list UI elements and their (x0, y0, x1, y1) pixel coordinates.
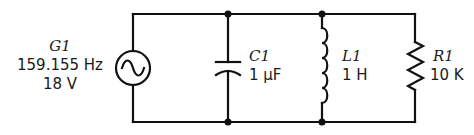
junction-dot (319, 11, 326, 18)
junction-dot (225, 119, 232, 126)
inductor-value-label: 1 H (342, 67, 368, 84)
inductor-coil-icon (322, 28, 327, 103)
resistor-zigzag-icon (408, 42, 423, 90)
capacitor-value-label: 1 μF (249, 67, 281, 84)
junction-dot (319, 119, 326, 126)
capacitor-ref-label: C1 (249, 48, 270, 65)
circuit-diagram: G1 159.155 Hz 18 V C1 1 μF L1 1 H R1 10 … (0, 0, 474, 135)
junction-dot (225, 11, 232, 18)
resistor-value-label: 10 K (430, 67, 464, 84)
source-voltage-label: 18 V (0, 76, 120, 93)
source-ref-label: G1 (0, 38, 120, 55)
resistor-ref-label: R1 (433, 48, 454, 65)
sine-wave-icon (122, 61, 144, 76)
source-frequency-label: 159.155 Hz (0, 57, 120, 74)
inductor-ref-label: L1 (342, 48, 362, 65)
